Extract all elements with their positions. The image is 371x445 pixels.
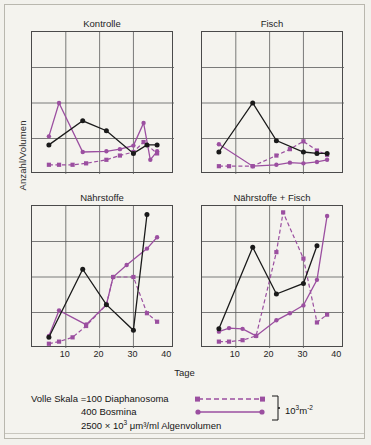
x-axis-label: Tage <box>5 367 364 378</box>
panel-fisch: Fisch <box>201 31 343 173</box>
bracket-label: 103m-2 <box>285 404 313 416</box>
plot-area <box>201 205 343 347</box>
x-tick-label: 20 <box>264 349 274 359</box>
plot-area <box>201 31 343 173</box>
legend-symbol-solid-line <box>195 407 265 417</box>
bracket-label-base: 10 <box>285 405 296 416</box>
legend-value: 100 <box>86 393 102 404</box>
panel-kontrolle: Kontrolle <box>31 31 173 173</box>
legend-name: Bosmina <box>100 406 137 417</box>
plot-area <box>31 205 173 347</box>
legend-value: 400 <box>81 406 97 417</box>
x-tick-label: 20 <box>94 349 104 359</box>
plot-area <box>31 31 173 173</box>
legend-name: Diaphanosoma <box>105 393 169 404</box>
x-axis: 10203040 <box>201 348 343 362</box>
figure-container: Anzahl/Volumen Kontrolle Fisch Nährstoff… <box>4 4 365 439</box>
legend-value: 2500 × 10 <box>81 420 124 431</box>
legend-row-bosmina: 400 Bosmina <box>81 406 136 417</box>
panel-title: Nährstoffe <box>31 192 173 203</box>
bracket-label-unit: m <box>299 405 307 416</box>
x-axis <box>31 174 173 188</box>
legend-row-algenvolumen: 2500 × 103 μm³/ml Algenvolumen <box>81 419 221 431</box>
bracket-icon <box>271 395 281 421</box>
x-tick-label: 30 <box>127 349 137 359</box>
legend-name: μm³/ml Algenvolumen <box>127 420 221 431</box>
x-tick-label: 10 <box>230 349 240 359</box>
y-axis-label: Anzahl/Volumen <box>17 91 28 221</box>
legend-prefix: Volle Skala = <box>31 393 86 404</box>
panel-naehrstoffe-fisch: Nährstoffe + Fisch 10203040 <box>201 205 343 347</box>
panel-title: Kontrolle <box>31 18 173 29</box>
legend-symbol-dashed-line <box>195 394 265 404</box>
panel-title: Nährstoffe + Fisch <box>201 192 343 203</box>
footer-divider <box>5 433 364 434</box>
panel-naehrstoffe: Nährstoffe 10203040 <box>31 205 173 347</box>
bracket-label-unit-exp: -2 <box>307 404 313 411</box>
x-axis: 10203040 <box>31 348 173 362</box>
panel-title: Fisch <box>201 18 343 29</box>
x-axis <box>201 174 343 188</box>
x-tick-label: 40 <box>161 349 171 359</box>
x-tick-label: 10 <box>60 349 70 359</box>
x-tick-label: 40 <box>331 349 341 359</box>
legend-row-diaphanosoma: Volle Skala =100 Diaphanosoma <box>31 393 169 404</box>
x-tick-label: 30 <box>297 349 307 359</box>
